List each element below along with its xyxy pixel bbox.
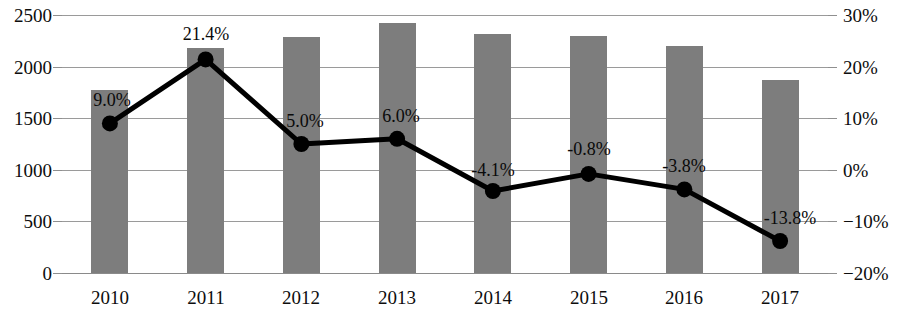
left-axis-tick-label: 2500 bbox=[14, 6, 52, 25]
category-label-2013: 2013 bbox=[378, 288, 416, 307]
right-axis-tick bbox=[828, 170, 837, 171]
right-axis-tick bbox=[828, 221, 837, 222]
left-axis-tick bbox=[53, 15, 62, 16]
bar-2011 bbox=[187, 48, 224, 273]
data-label-2013: 6.0% bbox=[382, 107, 420, 125]
gridline bbox=[62, 170, 828, 171]
left-axis-tick bbox=[53, 221, 62, 222]
right-axis-tick-label: −10% bbox=[843, 212, 889, 231]
data-label-2011: 21.4% bbox=[183, 25, 230, 43]
right-axis-tick bbox=[828, 67, 837, 68]
bar-2013 bbox=[379, 23, 416, 273]
right-axis-tick-label: 20% bbox=[843, 58, 878, 77]
left-axis-tick-label: 1000 bbox=[14, 161, 52, 180]
left-axis-tick-label: 500 bbox=[24, 212, 53, 231]
data-label-2012: 5.0% bbox=[286, 112, 324, 130]
left-axis-tick bbox=[53, 273, 62, 274]
category-label-2011: 2011 bbox=[187, 288, 224, 307]
category-label-2015: 2015 bbox=[570, 288, 608, 307]
data-label-2016: -3.8% bbox=[662, 157, 706, 175]
left-axis-tick bbox=[53, 118, 62, 119]
left-axis-tick-label: 2000 bbox=[14, 58, 52, 77]
gridline bbox=[62, 221, 828, 222]
category-label-2016: 2016 bbox=[665, 288, 703, 307]
right-axis-tick bbox=[828, 273, 837, 274]
bar-2012 bbox=[283, 37, 320, 273]
category-label-2017: 2017 bbox=[761, 288, 799, 307]
category-label-2010: 2010 bbox=[91, 288, 129, 307]
bar-2017 bbox=[762, 80, 799, 273]
category-label-2012: 2012 bbox=[282, 288, 320, 307]
right-axis-tick-label: 0% bbox=[843, 161, 868, 180]
data-label-2015: -0.8% bbox=[567, 140, 611, 158]
gridline bbox=[62, 273, 828, 274]
right-axis-tick-label: 10% bbox=[843, 109, 878, 128]
left-axis-tick bbox=[53, 170, 62, 171]
category-label-2014: 2014 bbox=[474, 288, 512, 307]
data-label-2017: -13.8% bbox=[764, 209, 817, 227]
gridline bbox=[62, 67, 828, 68]
bar-2010 bbox=[91, 90, 128, 273]
right-axis-tick bbox=[828, 118, 837, 119]
data-label-2010: 9.0% bbox=[93, 91, 131, 109]
right-axis-tick-label: −20% bbox=[843, 264, 889, 283]
right-axis-tick-label: 30% bbox=[843, 6, 878, 25]
right-axis-tick bbox=[828, 15, 837, 16]
growth-rate-combo-chart: 05001000150020002500 −20%−10%0%10%20%30%… bbox=[0, 0, 903, 318]
left-axis-tick-label: 0 bbox=[43, 264, 53, 283]
bar-2014 bbox=[474, 34, 511, 273]
left-axis-tick bbox=[53, 67, 62, 68]
data-label-2014: -4.1% bbox=[471, 161, 515, 179]
gridline bbox=[62, 15, 828, 16]
left-axis-tick-label: 1500 bbox=[14, 109, 52, 128]
gridline bbox=[62, 118, 828, 119]
